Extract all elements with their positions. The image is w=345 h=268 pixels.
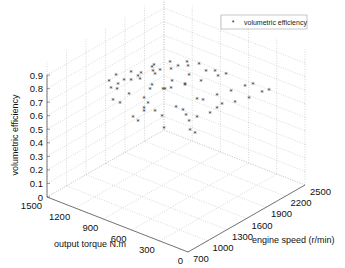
data-point-marker: * <box>129 77 133 85</box>
z-tick-label: 0.8 <box>30 83 43 94</box>
x-tick-label: 300 <box>139 244 155 255</box>
x-tick-label: 1500 <box>21 200 42 211</box>
data-point-marker: * <box>153 108 157 116</box>
data-point-marker: * <box>114 72 118 80</box>
data-point-marker: * <box>188 127 192 135</box>
grid-line <box>86 175 227 230</box>
data-point-marker: * <box>197 61 201 69</box>
data-point-marker: * <box>195 114 199 122</box>
data-point-marker: * <box>186 63 190 71</box>
y-tick-label: 1000 <box>213 242 234 253</box>
grid-line <box>145 141 286 196</box>
data-point-marker: * <box>247 95 251 103</box>
grid-line <box>164 116 305 171</box>
legend-marker-icon: * <box>232 19 235 26</box>
data-point-marker: * <box>195 96 199 104</box>
data-point-marker: * <box>127 91 131 99</box>
data-point-marker: * <box>201 97 205 105</box>
z-axis-label: volumetric efficiency <box>10 94 20 175</box>
z-tick-label: 0.3 <box>30 151 43 162</box>
x-axis-label: output torque N.m <box>54 239 126 249</box>
y-tick-label: 2200 <box>291 197 312 208</box>
data-point-marker: * <box>215 105 219 113</box>
z-tick-label: 0.9 <box>30 70 43 81</box>
y-tick-label: 1300 <box>232 231 253 242</box>
data-point-marker: * <box>136 118 140 126</box>
data-point-marker: * <box>204 68 208 76</box>
data-point-marker: * <box>146 100 150 108</box>
scatter3d-chart: 00.10.20.30.40.50.60.70.80.9030060090012… <box>0 0 345 268</box>
z-tick-label: 0.6 <box>30 110 43 121</box>
z-tick-label: 0.5 <box>30 124 43 135</box>
data-point-marker: * <box>174 104 178 112</box>
data-point-marker: * <box>139 70 143 78</box>
data-point-marker: * <box>176 63 180 71</box>
data-point-marker: * <box>183 82 187 90</box>
grid-line <box>164 130 305 185</box>
legend: * volumetric efficiency <box>221 15 307 29</box>
data-point-marker: * <box>122 77 126 85</box>
data-point-marker: * <box>162 125 166 133</box>
data-point-marker: * <box>208 110 212 118</box>
data-point-marker: * <box>158 67 162 75</box>
data-point-marker: * <box>131 114 135 122</box>
data-point-marker: * <box>118 100 122 108</box>
grid-lines <box>47 0 305 252</box>
data-point-marker: * <box>224 71 228 79</box>
data-points: ****************************************… <box>107 59 271 138</box>
y-tick-label: 1900 <box>271 208 292 219</box>
data-point-marker: * <box>216 73 220 81</box>
data-point-marker: * <box>251 81 255 89</box>
data-point-marker: * <box>109 85 113 93</box>
z-tick-label: 0.1 <box>30 178 43 189</box>
y-tick-label: 1600 <box>252 220 273 231</box>
data-point-marker: * <box>267 87 271 95</box>
data-point-marker: * <box>187 72 191 80</box>
data-point-marker: * <box>193 130 197 138</box>
data-point-marker: * <box>163 86 167 94</box>
data-point-marker: * <box>233 99 237 107</box>
grid-line <box>125 152 266 207</box>
data-point-marker: * <box>116 81 120 89</box>
data-point-marker: * <box>243 83 247 91</box>
data-point-marker: * <box>142 105 146 113</box>
data-point-marker: * <box>260 89 264 97</box>
data-point-marker: * <box>111 97 115 105</box>
z-tick-label: 0.2 <box>30 164 43 175</box>
z-tick-label: 0.4 <box>30 137 43 148</box>
grid-line <box>106 164 247 219</box>
y-tick-label: 700 <box>193 253 209 264</box>
data-point-marker: * <box>151 68 155 76</box>
grid-line <box>164 22 305 77</box>
data-point-marker: * <box>129 69 133 77</box>
data-point-marker: * <box>229 88 233 96</box>
grid-line <box>164 49 305 104</box>
data-point-marker: * <box>199 78 203 86</box>
data-point-marker: * <box>220 101 224 109</box>
legend-label: volumetric efficiency <box>244 19 307 27</box>
data-point-marker: * <box>187 118 191 126</box>
x-tick-label: 900 <box>83 222 99 233</box>
y-axis-label: engine speed (r/min) <box>252 235 335 245</box>
y-tick-label: 2500 <box>310 186 331 197</box>
x-tick-label: 1200 <box>49 211 70 222</box>
data-point-marker: * <box>160 113 164 121</box>
z-tick-label: 0.7 <box>30 97 43 108</box>
data-point-marker: * <box>215 92 219 100</box>
data-point-marker: * <box>136 73 140 81</box>
data-point-marker: * <box>169 66 173 74</box>
grid-line <box>47 116 164 183</box>
data-point-marker: * <box>148 86 152 94</box>
data-point-marker: * <box>142 95 146 103</box>
data-point-marker: * <box>169 85 173 93</box>
x-tick-label: 0 <box>178 255 183 266</box>
